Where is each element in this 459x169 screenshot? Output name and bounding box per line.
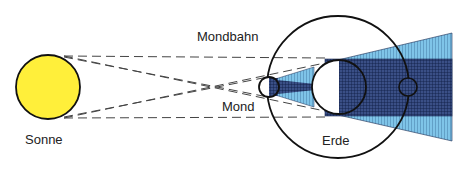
lunar-solar-eclipse-diagram: Sonne Mondbahn Mond Erde (0, 0, 459, 169)
moon-right (399, 78, 417, 96)
moon-left-day-side (259, 77, 269, 97)
sun-label: Sonne (25, 132, 63, 147)
earth-label: Erde (322, 133, 349, 148)
earth-day-side (312, 60, 339, 114)
moon-orbit-label: Mondbahn (197, 29, 258, 44)
moon-label: Mond (222, 99, 255, 114)
sun (16, 55, 80, 119)
